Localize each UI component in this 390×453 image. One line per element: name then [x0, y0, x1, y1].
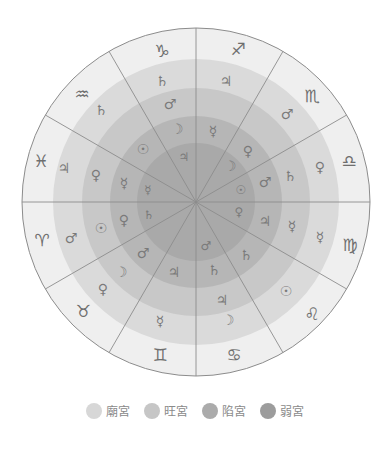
- venus-icon: ♀: [315, 159, 325, 175]
- saturn-icon: ♄: [208, 262, 221, 278]
- mercury-icon: ☿: [316, 229, 325, 245]
- sagittarius-icon: ♐: [230, 39, 245, 59]
- venus-icon: ♀: [235, 205, 244, 219]
- libra-icon: ♎: [341, 151, 356, 171]
- pisces-icon: ♓: [33, 151, 48, 171]
- moon-icon: ☽: [222, 312, 235, 328]
- mars-icon: ♂: [164, 96, 177, 112]
- legend-label: 旺宮: [164, 402, 188, 419]
- moon-icon: ☽: [224, 158, 237, 174]
- jupiter-icon: ♃: [168, 264, 181, 280]
- legend-label: 陷宮: [222, 402, 246, 419]
- virgo-icon: ♍: [342, 235, 357, 255]
- jupiter-icon: ♃: [179, 150, 190, 164]
- legend-item-rulership: 廟宮: [86, 402, 130, 419]
- mercury-icon: ☿: [288, 218, 297, 234]
- moon-icon: ☽: [115, 264, 128, 280]
- sun-icon: ☉: [280, 283, 293, 299]
- mars-icon: ♂: [65, 230, 78, 246]
- sun-icon: ☉: [236, 183, 247, 197]
- sun-icon: ☉: [137, 141, 150, 157]
- mars-icon: ♂: [137, 245, 150, 261]
- sun-icon: ☉: [95, 220, 108, 236]
- legend-dot-icon: [144, 403, 160, 419]
- leo-icon: ♌: [304, 304, 319, 324]
- moon-icon: ☽: [171, 121, 184, 137]
- saturn-icon: ♄: [284, 168, 297, 184]
- jupiter-icon: ♃: [220, 73, 233, 89]
- legend-item-detriment: 陷宮: [202, 402, 246, 419]
- legend: 廟宮 旺宮 陷宮 弱宮: [0, 402, 390, 419]
- saturn-icon: ♄: [144, 208, 155, 222]
- venus-icon: ♀: [98, 281, 108, 297]
- venus-icon: ♀: [243, 143, 253, 159]
- jupiter-icon: ♃: [58, 160, 71, 176]
- venus-icon: ♀: [91, 167, 101, 183]
- cancer-icon: ♋: [226, 345, 241, 365]
- saturn-icon: ♄: [95, 102, 108, 118]
- mars-icon: ♂: [201, 239, 212, 253]
- mercury-icon: ☿: [209, 123, 218, 139]
- aries-icon: ♈: [34, 230, 49, 250]
- legend-label: 弱宮: [280, 402, 304, 419]
- mercury-icon: ☿: [120, 175, 129, 191]
- mars-icon: ♂: [281, 106, 294, 122]
- dignity-wheel: ♑♐♏♎♍♌♋♊♉♈♓♒ ♄♃♂♀☿☉☽☿♀♂♃♄♂♀♄☿♄♃☽☉♀☽☿☽♂♃♄…: [0, 0, 390, 400]
- legend-dot-icon: [202, 403, 218, 419]
- saturn-icon: ♄: [156, 73, 169, 89]
- mars-icon: ♂: [259, 174, 272, 190]
- legend-label: 廟宮: [106, 402, 130, 419]
- legend-dot-icon: [260, 403, 276, 419]
- mercury-icon: ☿: [156, 313, 165, 329]
- taurus-icon: ♉: [75, 301, 90, 321]
- saturn-icon: ♄: [240, 247, 253, 263]
- jupiter-icon: ♃: [216, 292, 229, 308]
- aquarius-icon: ♒: [74, 84, 89, 104]
- legend-item-fall: 弱宮: [260, 402, 304, 419]
- scorpio-icon: ♏: [304, 86, 319, 106]
- jupiter-icon: ♃: [259, 213, 272, 229]
- mercury-icon: ☿: [144, 183, 151, 197]
- legend-dot-icon: [86, 403, 102, 419]
- legend-item-exaltation: 旺宮: [144, 402, 188, 419]
- capricorn-icon: ♑: [154, 41, 169, 61]
- venus-icon: ♀: [119, 212, 129, 228]
- gemini-icon: ♊: [152, 345, 167, 365]
